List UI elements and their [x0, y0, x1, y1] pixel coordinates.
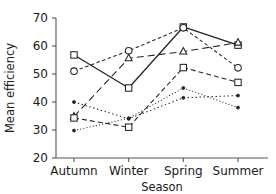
line-chart: 203040506070 Mean efficiency AutumnWinte…: [0, 0, 276, 194]
series-line: [74, 68, 238, 128]
y-tick-label: 30: [33, 123, 48, 137]
series-series-5: [73, 94, 240, 120]
y-axis-ticks: [52, 18, 56, 158]
x-axis: AutumnWinterSpringSummer Season: [50, 158, 268, 194]
series-series-1: [71, 24, 241, 91]
series-line: [74, 88, 238, 131]
x-axis-title: Season: [141, 180, 183, 194]
x-axis-tick-labels: AutumnWinterSpringSummer: [50, 164, 263, 178]
marker-circle: [180, 25, 187, 32]
y-tick-label: 70: [33, 11, 48, 25]
y-axis-tick-labels: 203040506070: [33, 11, 48, 165]
marker-circle: [235, 65, 242, 72]
marker-square: [235, 79, 241, 85]
data-series-layer: [70, 24, 241, 132]
marker-circle: [125, 47, 132, 54]
x-tick-label: Spring: [164, 164, 203, 178]
series-series-4: [71, 64, 241, 130]
series-series-3: [70, 39, 241, 119]
marker-dot: [73, 129, 76, 132]
x-tick-label: Autumn: [50, 164, 97, 178]
marker-square: [125, 124, 131, 130]
chart-container: 203040506070 Mean efficiency AutumnWinte…: [0, 0, 276, 194]
y-tick-label: 60: [33, 39, 48, 53]
series-series-2: [71, 25, 242, 75]
x-tick-label: Summer: [213, 164, 264, 178]
x-axis-ticks: [74, 158, 238, 162]
marker-dot: [127, 117, 130, 120]
series-line: [74, 43, 238, 117]
marker-dot: [237, 94, 240, 97]
marker-dot: [182, 96, 185, 99]
marker-dot: [237, 106, 240, 109]
marker-square: [125, 85, 131, 91]
marker-dot: [182, 87, 185, 90]
marker-square: [71, 115, 77, 121]
y-tick-label: 50: [33, 67, 48, 81]
y-tick-label: 20: [33, 151, 48, 165]
y-axis-title: Mean efficiency: [3, 43, 17, 133]
marker-circle: [71, 68, 78, 75]
x-tick-label: Winter: [109, 164, 149, 178]
series-line: [74, 27, 238, 88]
marker-dot: [73, 101, 76, 104]
series-line: [74, 28, 238, 71]
marker-square: [180, 64, 186, 70]
marker-square: [71, 52, 77, 58]
y-tick-label: 40: [33, 95, 48, 109]
y-axis: 203040506070 Mean efficiency: [3, 11, 56, 165]
